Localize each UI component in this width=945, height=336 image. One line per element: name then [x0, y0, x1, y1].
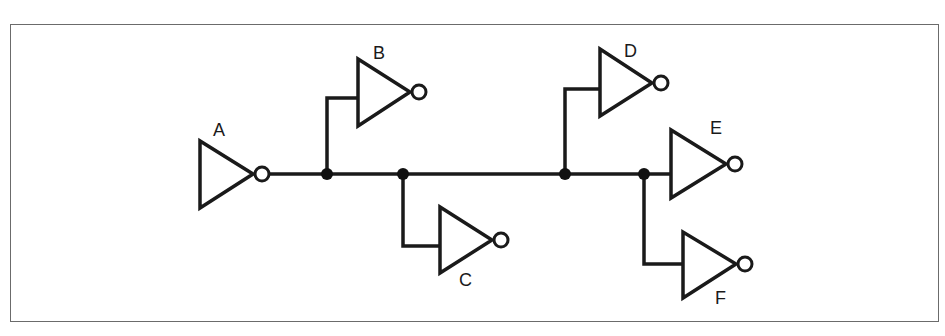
- gate-label-b: B: [373, 43, 385, 63]
- inverter-f: F: [683, 232, 752, 308]
- circuit-diagram: A B C D E F: [0, 0, 945, 336]
- junction-dot: [397, 168, 409, 180]
- gate-label-e: E: [710, 118, 722, 138]
- gate-label-f: F: [715, 288, 726, 308]
- inverter-a-body-icon: [200, 141, 253, 208]
- gate-label-c: C: [459, 270, 472, 290]
- inverter-f-body-icon: [683, 232, 736, 298]
- junction-dot: [638, 168, 650, 180]
- inverter-c: C: [440, 207, 508, 290]
- inverter-c-body-icon: [440, 207, 492, 273]
- inverter-e-body-icon: [671, 130, 726, 198]
- junction-dot: [559, 168, 571, 180]
- inverter-e: E: [671, 118, 742, 198]
- inverter-a-bubble-icon: [255, 167, 269, 181]
- inverter-d-bubble-icon: [654, 76, 668, 90]
- gate-label-a: A: [213, 120, 225, 140]
- inverter-b: B: [358, 43, 426, 126]
- inverter-b-body-icon: [358, 59, 410, 126]
- inverter-b-bubble-icon: [412, 85, 426, 99]
- inverter-f-bubble-icon: [738, 257, 752, 271]
- wire-to-d: [565, 89, 600, 174]
- junction-dot: [321, 168, 333, 180]
- wire-to-c: [403, 174, 440, 246]
- inverter-c-bubble-icon: [494, 233, 508, 247]
- inverter-e-bubble-icon: [728, 157, 742, 171]
- wire-to-b: [327, 98, 358, 174]
- inverter-a: A: [200, 120, 269, 208]
- gate-label-d: D: [624, 41, 637, 61]
- inverter-d: D: [600, 41, 668, 116]
